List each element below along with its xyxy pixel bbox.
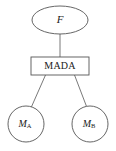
diagram-svg: F MADA MA MB — [0, 0, 116, 151]
node-leaf-left-label-subscript: A — [27, 123, 32, 130]
node-root-label: F — [56, 13, 64, 25]
diagram-canvas: F MADA MA MB — [0, 0, 116, 151]
edge-middle-to-leaf-right — [75, 75, 88, 109]
node-middle-label: MADA — [44, 60, 76, 71]
node-leaf-right-label-subscript: B — [91, 123, 96, 130]
edge-middle-to-leaf-left — [31, 75, 46, 109]
